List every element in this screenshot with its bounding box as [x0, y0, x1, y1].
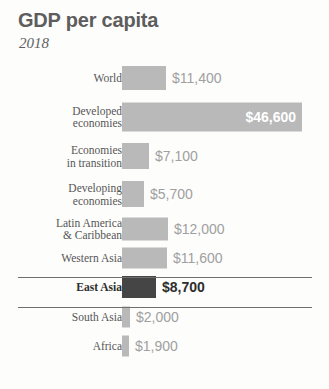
bar-row-label: Economies in transition [12, 144, 122, 169]
bar-row-label: Developing economies [12, 182, 122, 207]
highlight-rule-top [18, 277, 312, 278]
bar [122, 276, 156, 298]
bar [122, 306, 130, 327]
chart-title: GDP per capita [18, 9, 158, 32]
bar [122, 217, 168, 240]
bar-rows: World$11,400Developed economies$46,600Ec… [0, 60, 329, 360]
bar-row: World$11,400 [0, 60, 329, 96]
bar-row-label: East Asia [12, 281, 122, 294]
bar-row-label: Latin America & Caribbean [12, 216, 122, 241]
bar [122, 335, 129, 356]
bar-value: $12,000 [174, 221, 225, 237]
bar [122, 248, 167, 269]
bar-row: Latin America & Caribbean$12,000 [0, 213, 329, 244]
bar [122, 181, 144, 207]
highlight-rule-bottom [18, 307, 312, 308]
bar-row: Developed economies$46,600 [0, 96, 329, 137]
bar-value: $5,700 [150, 186, 193, 202]
bar-row-label: Developed economies [12, 104, 122, 129]
bar-row: Economies in transition$7,100 [0, 137, 329, 175]
bar-row: Developing economies$5,700 [0, 175, 329, 213]
gdp-per-capita-chart: GDP per capita 2018 World$11,400Develope… [0, 0, 329, 389]
bar [122, 143, 149, 169]
bar [122, 66, 166, 90]
bar-value: $11,400 [172, 70, 222, 86]
bar-row-label: World [12, 72, 122, 85]
bar-value: $8,700 [162, 279, 205, 295]
bar-row-label: South Asia [12, 310, 122, 323]
bar-value-inside: $46,600 [245, 109, 296, 125]
bar-value: $1,900 [135, 338, 178, 354]
bar-row-label: Western Asia [12, 252, 122, 265]
bar-value: $2,000 [136, 309, 179, 325]
chart-subtitle-year: 2018 [19, 35, 49, 52]
bar-value: $7,100 [155, 148, 198, 164]
bar-row: Western Asia$11,600 [0, 244, 329, 272]
bar-row: Africa$1,900 [0, 331, 329, 360]
bar-value: $11,600 [173, 250, 223, 266]
bar-row-label: Africa [12, 339, 122, 352]
